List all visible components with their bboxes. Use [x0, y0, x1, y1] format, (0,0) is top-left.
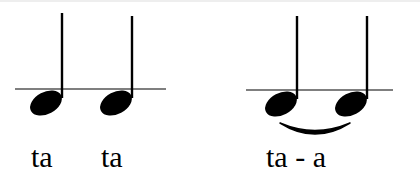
quarter-note-icon	[96, 16, 136, 121]
quarter-note-icon	[261, 16, 301, 122]
quarter-note-icon	[26, 13, 66, 121]
quarter-note-icon	[331, 16, 371, 122]
right-note-group	[0, 0, 393, 134]
syllable-label: ta	[101, 142, 123, 172]
left-note-group	[15, 13, 166, 121]
syllable-label: ta	[31, 142, 53, 172]
top-edge	[0, 0, 420, 2]
notation-canvas	[0, 0, 420, 180]
tie-arc-icon	[280, 123, 350, 134]
tied-syllable-label: ta - a	[266, 142, 326, 172]
